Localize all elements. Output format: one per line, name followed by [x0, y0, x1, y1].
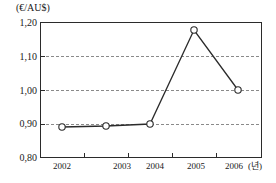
data-point-2002 — [59, 124, 65, 130]
exchange-rate-line-chart: (€/AU$) 1,20 1,10 1,00 0,90 0,80 2002 20… — [0, 0, 276, 183]
x-axis-ticks — [85, 153, 217, 158]
y-axis-ticks — [41, 57, 46, 125]
data-point-2006 — [235, 87, 241, 93]
data-series-line — [62, 30, 238, 127]
data-point-markers — [59, 27, 241, 130]
data-point-2005 — [191, 27, 197, 33]
gridlines — [41, 57, 261, 125]
chart-plot-svg — [0, 0, 276, 183]
data-point-2004 — [147, 121, 153, 127]
data-point-2003 — [103, 123, 109, 129]
